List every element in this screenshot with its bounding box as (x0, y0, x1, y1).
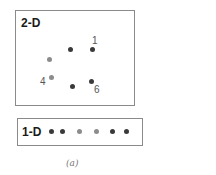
point-2d-1 (90, 47, 95, 52)
point-1d (60, 129, 65, 134)
point-2d (68, 47, 73, 52)
point-2d (47, 57, 52, 62)
point-1d (124, 129, 129, 134)
panel-2d-label: 2-D (21, 16, 40, 30)
point-label-6: 6 (94, 84, 100, 95)
panel-2d: 2-D (15, 10, 135, 106)
point-label-4: 4 (40, 76, 46, 87)
point-label-1: 1 (92, 35, 98, 46)
point-2d-4 (49, 75, 54, 80)
point-1d (110, 129, 115, 134)
point-1d (77, 129, 82, 134)
point-1d (94, 129, 99, 134)
point-1d (49, 129, 54, 134)
panel-1d-label: 1-D (22, 125, 41, 139)
figure-caption: (a) (66, 158, 78, 168)
point-2d (70, 84, 75, 89)
